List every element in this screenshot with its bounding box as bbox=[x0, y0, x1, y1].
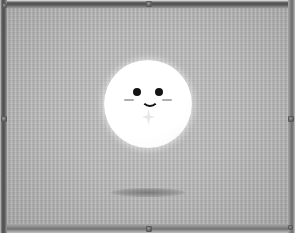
screw-top-left bbox=[2, 3, 7, 8]
right-blush bbox=[162, 99, 172, 101]
screw-bottom-right bbox=[288, 225, 293, 230]
mascot[interactable] bbox=[104, 60, 192, 148]
left-blush bbox=[124, 99, 134, 101]
panel-screen bbox=[7, 8, 288, 224]
character-shadow bbox=[111, 188, 185, 197]
left-eye bbox=[133, 88, 141, 96]
screw-bottom-center bbox=[146, 226, 152, 232]
screw-top-center bbox=[146, 1, 152, 7]
screenshot-stage bbox=[0, 0, 295, 233]
screw-left-mid bbox=[1, 116, 7, 122]
sparkle-icon bbox=[142, 109, 155, 125]
display-panel bbox=[0, 0, 295, 233]
screw-right-mid bbox=[288, 116, 294, 122]
